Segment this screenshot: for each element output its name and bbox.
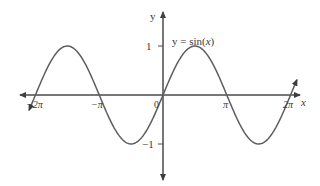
x-tick-label-neg2pi: −2π <box>26 99 44 110</box>
sine-graph: y x y = sin(x) 1 −1 −2π −π 0 π 2π <box>0 0 320 186</box>
y-tick-label-1: 1 <box>146 40 152 52</box>
x-axis-label: x <box>300 96 306 108</box>
function-label-suffix: ) <box>211 35 215 48</box>
x-tick-label-2pi: 2π <box>283 99 294 110</box>
function-label-prefix: y = sin( <box>172 35 206 48</box>
function-label: y = sin(x) <box>172 35 215 48</box>
y-tick-label-neg1: −1 <box>142 138 154 150</box>
x-tick-label-negpi: −π <box>91 99 104 110</box>
y-axis-label: y <box>150 10 156 22</box>
x-tick-label-pi: π <box>223 99 229 110</box>
x-tick-label-0: 0 <box>154 99 159 110</box>
